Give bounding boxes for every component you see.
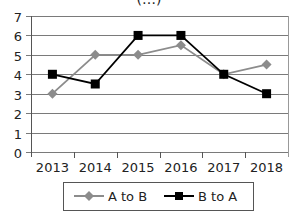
y-tick-label: 3 [14, 88, 22, 103]
square-marker-icon [134, 31, 143, 40]
y-tick-label: 2 [14, 107, 22, 122]
legend-label-b-to-a: B to A [198, 189, 237, 204]
y-tick-label: 5 [14, 49, 22, 64]
x-tick-label: 2014 [79, 160, 112, 175]
square-marker-icon [48, 70, 57, 79]
x-tick-label: 2016 [164, 160, 197, 175]
y-tick-label: 1 [14, 127, 22, 142]
y-tick-label: 0 [14, 146, 22, 161]
x-tick-label: 2017 [207, 160, 240, 175]
x-axis: 201320142015201620172018 [36, 152, 283, 175]
x-tick-label: 2018 [250, 160, 283, 175]
square-marker-icon [262, 89, 271, 98]
legend-label-a-to-b: A to B [108, 189, 147, 204]
square-marker-icon [176, 31, 185, 40]
diamond-marker-icon [176, 40, 186, 50]
y-axis: 01234567 [14, 10, 22, 161]
chart-title: (…) [137, 0, 162, 7]
line-chart: (…) 01234567 201320142015201620172018 A … [0, 0, 298, 216]
y-tick-label: 7 [14, 10, 22, 25]
series-line [52, 45, 266, 94]
series-group [47, 31, 271, 99]
diamond-marker-icon [133, 50, 143, 60]
legend: A to B B to A [64, 183, 254, 211]
x-tick-label: 2015 [122, 160, 155, 175]
y-tick-label: 6 [14, 29, 22, 44]
series-a-to-b [47, 40, 271, 99]
chart-title-text: (…) [137, 0, 162, 7]
square-marker-icon [91, 80, 100, 89]
diamond-marker-icon [262, 60, 272, 70]
x-tick-label: 2013 [36, 160, 69, 175]
y-tick-label: 4 [14, 68, 22, 83]
series-b-to-a [48, 31, 271, 98]
square-marker-icon [175, 192, 183, 200]
square-marker-icon [219, 70, 228, 79]
